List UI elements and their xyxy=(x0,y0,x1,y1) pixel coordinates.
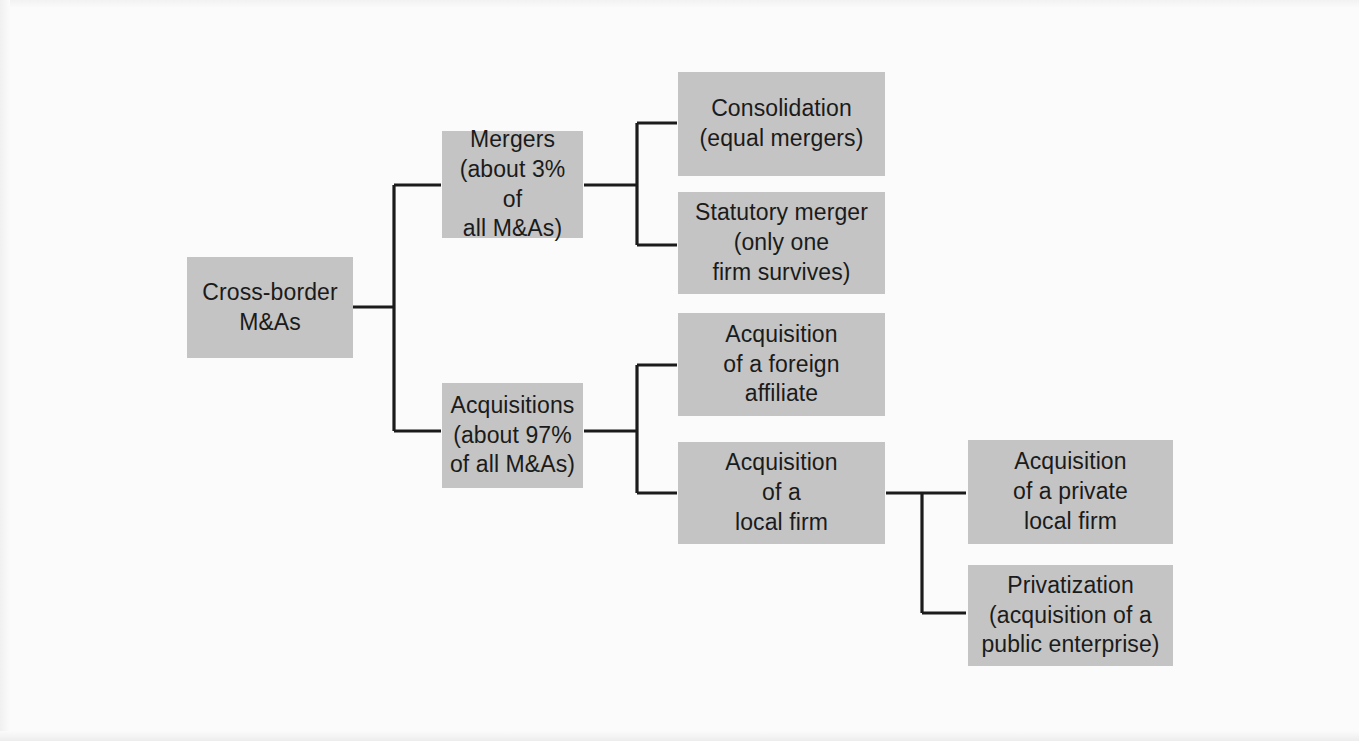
node-privatization[interactable]: Privatization (acquisition of a public e… xyxy=(968,565,1173,666)
node-acquisition-local-firm[interactable]: Acquisition of a local firm xyxy=(678,442,885,544)
node-acquisition-private-local-firm[interactable]: Acquisition of a private local firm xyxy=(968,440,1173,544)
page-edge-top xyxy=(0,0,1359,8)
node-mergers[interactable]: Mergers (about 3% of all M&As) xyxy=(442,131,583,238)
page-edge-left xyxy=(0,0,10,741)
diagram-canvas: Cross-border M&As Mergers (about 3% of a… xyxy=(0,0,1359,741)
node-acquisition-foreign-affiliate[interactable]: Acquisition of a foreign affiliate xyxy=(678,313,885,416)
node-acquisitions[interactable]: Acquisitions (about 97% of all M&As) xyxy=(442,383,583,488)
node-statutory-merger[interactable]: Statutory merger (only one firm survives… xyxy=(678,192,885,294)
node-consolidation[interactable]: Consolidation (equal mergers) xyxy=(678,72,885,176)
page-edge-bottom xyxy=(0,731,1359,741)
node-cross-border-mas[interactable]: Cross-border M&As xyxy=(187,257,353,358)
